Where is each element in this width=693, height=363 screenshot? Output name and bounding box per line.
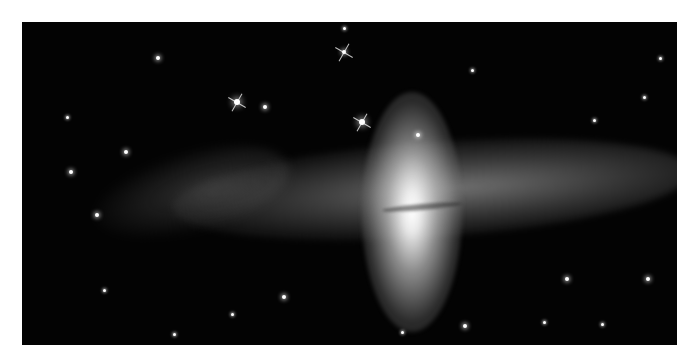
star xyxy=(565,277,569,281)
star xyxy=(416,133,420,137)
diffraction-spike xyxy=(339,43,350,61)
star xyxy=(231,313,234,316)
galaxy-photo xyxy=(22,22,677,345)
star xyxy=(659,57,662,60)
galaxy-bulge xyxy=(362,92,462,332)
star xyxy=(124,150,128,154)
star xyxy=(463,324,467,328)
star xyxy=(643,96,646,99)
star xyxy=(401,331,404,334)
star xyxy=(282,295,286,299)
star xyxy=(69,170,73,174)
star xyxy=(66,116,69,119)
star xyxy=(263,105,267,109)
star xyxy=(646,277,650,281)
star xyxy=(173,333,176,336)
star xyxy=(343,27,346,30)
star xyxy=(156,56,160,60)
star xyxy=(593,119,596,122)
star xyxy=(471,69,474,72)
star xyxy=(543,321,546,324)
star xyxy=(601,323,604,326)
star xyxy=(103,289,106,292)
star xyxy=(95,213,99,217)
